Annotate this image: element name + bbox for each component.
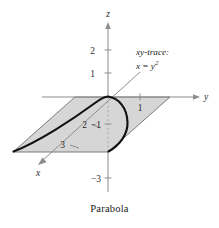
z-axis-arrowhead — [105, 22, 111, 29]
figure-caption: Parabola — [0, 203, 219, 214]
x-axis-label: x — [35, 168, 41, 178]
coordinate-plot: 2 1 −1 −3 1 2 3 z y x — [0, 0, 219, 200]
z-tick-label-1: 1 — [90, 69, 95, 79]
xy-trace-equation-lhs: x = y — [136, 61, 155, 71]
x-tick-label-2: 2 — [82, 120, 87, 130]
y-axis-arrowhead — [193, 94, 200, 100]
z-tick-label-2: 2 — [90, 46, 95, 56]
xy-trace-equation-exponent: 2 — [155, 59, 158, 66]
z-axis-label: z — [105, 9, 110, 19]
parabola-figure: 2 1 −1 −3 1 2 3 z y x xy-trace: x = y2 P… — [0, 0, 219, 228]
xy-trace-equation: x = y2 — [136, 59, 169, 73]
x-tick-label-3: 3 — [60, 140, 65, 150]
y-tick-label-1: 1 — [138, 103, 143, 113]
y-axis-label: y — [203, 92, 209, 102]
x-axis-arrowhead — [38, 158, 47, 165]
xy-trace-title: xy-trace: — [136, 47, 169, 59]
xy-trace-annotation: xy-trace: x = y2 — [136, 47, 169, 73]
z-tick-label-neg1: −1 — [91, 120, 101, 130]
z-tick-label-neg3: −3 — [91, 174, 101, 184]
